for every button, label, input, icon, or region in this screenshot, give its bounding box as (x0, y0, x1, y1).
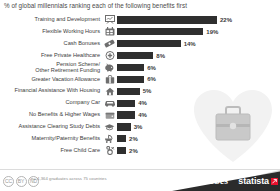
bar-row: No Benefits & Higher Wages 4% (0, 109, 280, 121)
bar-value: 4% (135, 100, 147, 106)
bar-label: Cash Bonuses (0, 41, 103, 47)
bar-track: 22% (116, 14, 280, 26)
bar-value: 2% (126, 148, 138, 154)
bar-track: 5% (116, 85, 280, 97)
bar-list: Training and Development 22% Flexible Wo… (0, 14, 280, 157)
sample-size-note: n= 4,364 graduates across 75 countries (31, 176, 107, 181)
house-icon (103, 86, 116, 97)
cc-icon: CC (3, 176, 14, 187)
bar-track: 6% (116, 62, 280, 74)
bar-value: 8% (153, 53, 165, 59)
bar-fill (117, 40, 181, 47)
bar-value: 14% (181, 41, 196, 47)
bar-label: Pension Scheme/ Other Retirement Funding (0, 62, 103, 74)
bar-fill (117, 135, 126, 142)
statista-logo: statista (238, 176, 269, 186)
bar-label: Greater Vacation Allowance (0, 77, 103, 83)
bar-row: Free Private Healthcare 8% (0, 50, 280, 62)
bar-row: Maternity/Paternity Benefits 2% (0, 133, 280, 145)
bar-value: 19% (203, 29, 218, 35)
bar-row: Assistance Clearing Study Debts 3% (0, 121, 280, 133)
bar-label: Maternity/Paternity Benefits (0, 136, 103, 142)
pacifier-icon (103, 145, 116, 156)
bar-fill (117, 64, 144, 71)
bar-fill (117, 52, 153, 59)
bar-label: Company Car (0, 100, 103, 106)
presentation-board-icon (103, 14, 116, 25)
bar-row: Training and Development 22% (0, 14, 280, 26)
bar-value: 6% (144, 76, 156, 82)
bar-value: 22% (217, 17, 232, 23)
wallet-icon (103, 110, 116, 121)
bar-row: Company Car 4% (0, 97, 280, 109)
bar-label: Financial Assistance With Housing (0, 88, 103, 94)
cc-by-icon: BY (16, 176, 27, 187)
bar-label: Free Private Healthcare (0, 53, 103, 59)
bar-track: 6% (116, 73, 280, 85)
bar-fill (117, 28, 203, 35)
bar-fill (117, 100, 135, 107)
bar-fill (117, 88, 140, 95)
bar-track: 3% (116, 121, 280, 133)
statista-logo-mark (271, 178, 278, 185)
bar-track: 19% (116, 26, 280, 38)
bar-value: 6% (144, 65, 156, 71)
baby-stroller-icon (103, 133, 116, 144)
bar-track: 4% (116, 97, 280, 109)
bar-value: 2% (126, 136, 138, 142)
bar-fill (117, 147, 126, 154)
bar-label: Flexible Working Hours (0, 29, 103, 35)
forbes-logo: Forbes (199, 176, 228, 186)
bar-row: Pension Scheme/ Other Retirement Funding… (0, 62, 280, 74)
graduation-cap-icon (103, 121, 116, 132)
chart-root: % of global millennials ranking each of … (0, 0, 280, 191)
bar-label: Free Child Care (0, 148, 103, 154)
bar-value: 4% (135, 112, 147, 118)
bar-label: Assistance Clearing Study Debts (0, 124, 103, 130)
bar-row: Cash Bonuses 14% (0, 38, 280, 50)
bar-row: Free Child Care 2% (0, 145, 280, 157)
bar-fill (117, 123, 131, 130)
car-icon (103, 98, 116, 109)
bar-row: Flexible Working Hours 19% (0, 26, 280, 38)
bar-track: 2% (116, 133, 280, 145)
suitcase-icon (103, 74, 116, 85)
bar-label: No Benefits & Higher Wages (0, 112, 103, 118)
bar-label: Training and Development (0, 17, 103, 23)
bar-track: 2% (116, 145, 280, 157)
bar-value: 5% (140, 88, 152, 94)
money-banknote-icon (103, 38, 116, 49)
bar-value: 3% (131, 124, 143, 130)
bar-track: 8% (116, 50, 280, 62)
medical-cross-icon (103, 50, 116, 61)
bar-row: Financial Assistance With Housing 5% (0, 85, 280, 97)
bar-fill (117, 111, 135, 118)
brand-bar: Forbes statista (158, 170, 280, 191)
bar-fill (117, 16, 217, 23)
chart-title: % of global millennials ranking each of … (4, 2, 276, 10)
piggy-bank-icon (103, 62, 116, 73)
bar-track: 14% (116, 38, 280, 50)
bar-track: 4% (116, 109, 280, 121)
bar-fill (117, 76, 144, 83)
footer: CC BY ND n= 4,364 graduates across 75 co… (0, 169, 280, 191)
bar-row: Greater Vacation Allowance 6% (0, 73, 280, 85)
calendar-icon (103, 26, 116, 37)
